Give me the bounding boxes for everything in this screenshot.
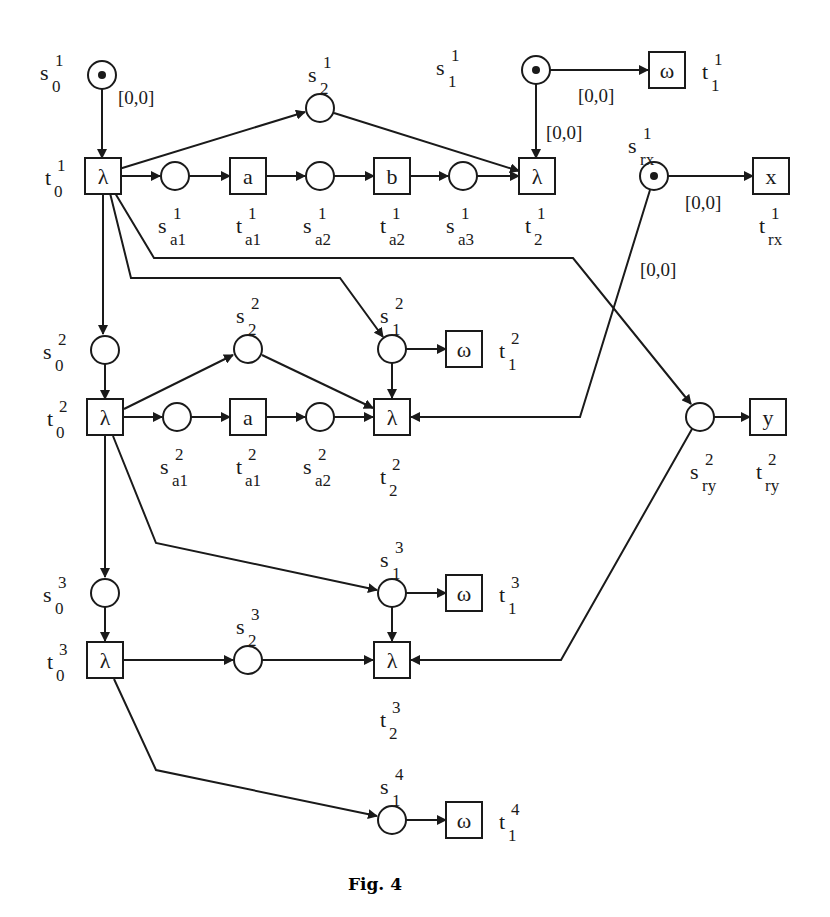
token-dot-icon	[98, 71, 106, 79]
transition-label: t10	[45, 156, 66, 201]
transition-t0_2[interactable]: λt20	[47, 397, 123, 442]
place-s1_1[interactable]: s11	[436, 46, 550, 91]
place-label: s2a1	[160, 445, 188, 490]
transition-label-subscript: 0	[54, 182, 63, 201]
place-label-base: s	[43, 582, 52, 607]
place-label-superscript: 4	[395, 765, 404, 784]
transition-label: t32	[380, 698, 401, 743]
transition-symbol: x	[766, 164, 777, 189]
place-circle-icon[interactable]	[306, 162, 334, 190]
time-interval-iv_s1_1_t1_1: [0,0]	[578, 85, 614, 106]
transition-t2_2[interactable]: λt22	[374, 399, 410, 500]
transition-t1_3[interactable]: ωt31	[446, 573, 520, 618]
transition-label: t1a2	[380, 204, 405, 249]
transition-t1_1[interactable]: ωt11	[649, 50, 723, 95]
figure-caption: Fig. 4	[348, 874, 402, 894]
transition-ta1_1[interactable]: at1a1	[230, 158, 266, 249]
place-label-base: s	[303, 454, 312, 479]
place-label-base: s	[690, 459, 699, 484]
place-s2_1[interactable]: s12	[306, 53, 334, 122]
transition-trx_1[interactable]: xt1rx	[753, 158, 789, 249]
transition-try_2[interactable]: yt2ry	[750, 399, 786, 495]
transition-symbol: y	[763, 405, 774, 430]
place-sry_2[interactable]: s2ry	[686, 403, 717, 495]
place-label-superscript: 1	[461, 204, 470, 223]
arc-t0_1-to-s1_2	[110, 193, 383, 337]
place-s1_2[interactable]: s21	[378, 294, 406, 363]
place-sa3_1[interactable]: s1a3	[446, 162, 477, 249]
place-circle-icon[interactable]	[306, 403, 334, 431]
place-circle-icon[interactable]	[234, 335, 262, 363]
transition-t0_1[interactable]: λt10	[45, 156, 121, 201]
place-sa1_2[interactable]: s2a1	[160, 403, 191, 490]
place-label-base: s	[308, 62, 317, 87]
place-label-subscript: 1	[392, 564, 401, 583]
transition-label-base: t	[47, 406, 53, 431]
place-circle-icon[interactable]	[378, 806, 406, 834]
transition-label-subscript: 0	[56, 423, 65, 442]
transition-label-superscript: 3	[392, 698, 401, 717]
transition-label: t2ry	[756, 450, 780, 495]
transition-label-subscript: a2	[389, 230, 405, 249]
place-s1_4[interactable]: s41	[378, 765, 406, 834]
transition-t1_2[interactable]: ωt21	[446, 329, 520, 374]
place-label: s31	[380, 538, 404, 583]
arc-sry_2-to-t2_3	[411, 429, 692, 660]
transition-label-superscript: 4	[511, 800, 520, 819]
place-circle-icon[interactable]	[161, 162, 189, 190]
place-circle-icon[interactable]	[91, 336, 119, 364]
place-label-superscript: 2	[251, 294, 260, 313]
place-label-subscript: a2	[315, 471, 331, 490]
place-s0_3[interactable]: s30	[43, 573, 119, 618]
place-s1_3[interactable]: s31	[378, 538, 406, 607]
place-sa2_2[interactable]: s2a2	[303, 403, 334, 490]
arc-s2_1-to-t2_1	[334, 113, 519, 171]
place-label-superscript: 1	[318, 204, 327, 223]
place-s0_2[interactable]: s20	[43, 330, 119, 375]
place-label: s1a2	[303, 204, 331, 249]
transition-ta1_2[interactable]: at2a1	[230, 399, 266, 490]
transition-t2_3[interactable]: λt32	[374, 642, 410, 743]
place-label-subscript: 2	[248, 631, 257, 650]
place-s2_3[interactable]: s32	[234, 605, 262, 674]
transition-t1_4[interactable]: ωt41	[446, 800, 520, 845]
transition-t0_3[interactable]: λt30	[47, 640, 123, 685]
place-s2_2[interactable]: s22	[234, 294, 262, 363]
place-label-superscript: 2	[705, 450, 714, 469]
transition-label-subscript: 1	[508, 599, 517, 618]
place-label: s1a1	[158, 204, 186, 249]
place-sa2_1[interactable]: s1a2	[303, 162, 334, 249]
place-circle-icon[interactable]	[449, 162, 477, 190]
transition-label-base: t	[380, 213, 386, 238]
time-interval-iv_s0_1: [0,0]	[118, 87, 154, 108]
place-label: s21	[380, 294, 404, 339]
transition-label-superscript: 2	[511, 329, 520, 348]
place-label-base: s	[158, 213, 167, 238]
place-label-subscript: a3	[458, 230, 474, 249]
transition-label-base: t	[45, 165, 51, 190]
place-circle-icon[interactable]	[378, 579, 406, 607]
transition-ta2_1[interactable]: bt1a2	[374, 158, 410, 249]
transition-label-base: t	[759, 213, 765, 238]
place-label-base: s	[628, 133, 637, 158]
transition-label-superscript: 1	[537, 204, 546, 223]
place-circle-icon[interactable]	[234, 646, 262, 674]
transition-t2_1[interactable]: λt12	[519, 158, 555, 249]
place-circle-icon[interactable]	[378, 335, 406, 363]
transition-symbol: λ	[98, 164, 109, 189]
place-label-subscript: 2	[248, 320, 257, 339]
place-sa1_1[interactable]: s1a1	[158, 162, 189, 249]
place-circle-icon[interactable]	[686, 403, 714, 431]
place-circle-icon[interactable]	[163, 403, 191, 431]
transition-label-base: t	[525, 213, 531, 238]
transition-label-subscript: 1	[711, 76, 720, 95]
place-srx_1[interactable]: s1rx	[628, 124, 668, 190]
transition-symbol: λ	[532, 164, 543, 189]
place-circle-icon[interactable]	[91, 579, 119, 607]
place-s0_1[interactable]: s10	[40, 51, 116, 96]
transition-label-superscript: 2	[248, 445, 257, 464]
place-circle-icon[interactable]	[306, 94, 334, 122]
transition-label-base: t	[236, 454, 242, 479]
transition-symbol: λ	[100, 648, 111, 673]
transition-symbol: ω	[457, 337, 471, 362]
